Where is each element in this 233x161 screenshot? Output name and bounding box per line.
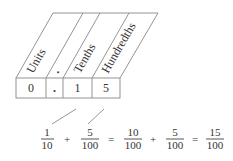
- svg-text:100: 100: [82, 139, 99, 151]
- digit-tenths: 1: [75, 81, 81, 95]
- digit-hundredths: 5: [103, 81, 109, 95]
- header-point: .: [48, 66, 62, 76]
- operator-plus-2: +: [150, 133, 156, 145]
- fraction-3: 10 100: [124, 126, 142, 151]
- pointer-tenths: [52, 109, 76, 124]
- fraction-2: 5 100: [81, 126, 99, 151]
- svg-text:10: 10: [42, 139, 54, 151]
- svg-text:5: 5: [87, 126, 93, 138]
- header-units: Units: [23, 46, 48, 76]
- fraction-1: 1 10: [41, 126, 54, 151]
- svg-text:100: 100: [125, 139, 142, 151]
- header-hundredths: Hundredths: [98, 20, 138, 76]
- operator-plus-1: +: [64, 133, 70, 145]
- fraction-5: 15 100: [206, 126, 224, 151]
- svg-text:100: 100: [207, 139, 224, 151]
- operator-equals-2: =: [192, 133, 198, 145]
- svg-text:100: 100: [167, 139, 184, 151]
- pointer-hundredths: [88, 109, 104, 124]
- svg-text:15: 15: [210, 126, 222, 138]
- operator-equals-1: =: [108, 133, 114, 145]
- svg-text:5: 5: [172, 126, 178, 138]
- digit-units: 0: [28, 81, 34, 95]
- fraction-4: 5 100: [166, 126, 184, 151]
- digit-point: .: [53, 81, 56, 95]
- place-value-diagram: Units . Tenths Hundredths 0 . 1 5 1 10 +…: [0, 0, 233, 161]
- svg-text:10: 10: [128, 126, 140, 138]
- svg-text:1: 1: [44, 126, 50, 138]
